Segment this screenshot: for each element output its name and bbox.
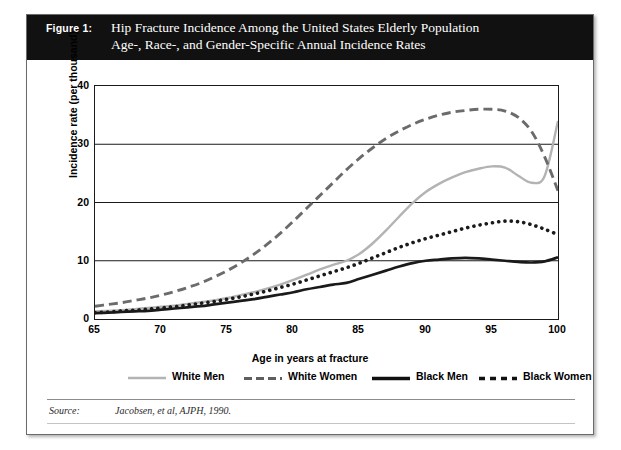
legend-swatch-black-women <box>479 376 517 381</box>
source-divider-bottom <box>47 423 575 424</box>
source-label: Source: <box>49 405 80 416</box>
y-axis-tick-30: 30 <box>63 137 89 149</box>
x-axis-tick-100: 100 <box>537 323 577 335</box>
x-axis-tick-70: 70 <box>140 323 180 335</box>
figure-title-line-2: Age-, Race-, and Gender-Specific Annual … <box>111 36 583 53</box>
figure-title-banner: Figure 1: Hip Fracture Incidence Among t… <box>27 15 593 60</box>
y-axis-tick-20: 20 <box>63 196 89 208</box>
chart-svg <box>95 86 558 319</box>
chart-plot-area: Incidence rate (per thousand) 40 30 20 1… <box>27 60 593 380</box>
x-axis-label: Age in years at fracture <box>27 352 593 364</box>
source-citation: Jacobsen, et al, AJPH, 1990. <box>115 405 231 416</box>
y-axis-tick-40: 40 <box>63 79 89 91</box>
legend-label-white-men: White Men <box>172 370 225 382</box>
legend-label-white-women: White Women <box>288 370 357 382</box>
chart-legend: White Men White Women Black Men Black Wo… <box>27 367 593 393</box>
series-line-white-women <box>95 109 558 306</box>
figure-title: Hip Fracture Incidence Among the United … <box>111 19 583 53</box>
source-note: Source: Jacobsen, et al, AJPH, 1990. <box>49 405 80 416</box>
x-axis-tick-80: 80 <box>272 323 312 335</box>
y-axis-label: Incidence rate (per thousand) <box>67 31 79 178</box>
y-axis-tick-10: 10 <box>63 254 89 266</box>
x-axis-tick-95: 95 <box>471 323 511 335</box>
legend-swatch-black-men <box>372 376 410 381</box>
series-line-white-men <box>95 121 558 311</box>
legend-label-black-women: Black Women <box>523 370 592 382</box>
x-axis-tick-85: 85 <box>338 323 378 335</box>
legend-label-black-men: Black Men <box>416 370 468 382</box>
figure-title-line-1: Hip Fracture Incidence Among the United … <box>111 19 583 36</box>
x-axis-tick-65: 65 <box>74 323 114 335</box>
plot-frame <box>94 85 559 320</box>
figure-container: Figure 1: Hip Fracture Incidence Among t… <box>26 14 594 435</box>
x-axis-tick-90: 90 <box>405 323 445 335</box>
source-divider-top <box>47 399 575 400</box>
legend-swatch-white-women <box>244 376 282 381</box>
legend-swatch-white-men <box>128 376 166 380</box>
series-line-black-men <box>95 257 558 313</box>
x-axis-tick-75: 75 <box>206 323 246 335</box>
